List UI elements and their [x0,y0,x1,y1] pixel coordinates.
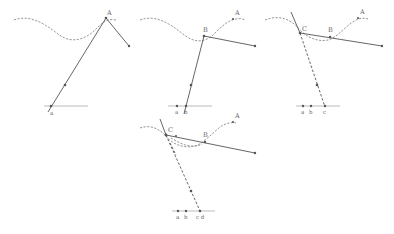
label-base-point: b [184,109,188,115]
curve-point [299,32,302,35]
label-base-left: a [301,109,305,115]
label-curve-top: A [359,8,365,16]
wave-curve [265,18,368,41]
diagram-canvas: A a A B a b A B C a b [0,0,394,234]
panel-4: A B C a b c d [140,112,256,220]
base-mid-point [310,105,312,107]
tangent-line [106,18,129,46]
panel-1: A a [14,9,130,116]
ray-line [48,18,106,112]
ray-dashed-line [300,33,325,107]
end-point [254,152,256,154]
wave-curve [14,18,116,40]
curve-point [203,35,206,38]
label-curve-point: C [168,126,173,134]
label-curve-top: A [234,112,240,120]
label-base-point: a [50,110,54,116]
end-point [128,45,130,47]
mid-point [190,84,193,87]
label-curve-mid: B [328,26,333,34]
curve-mid-point [329,36,331,38]
label-curve-top: A [234,9,240,17]
curve-point [165,134,168,137]
curve-top-point [232,18,234,20]
panel-2: A B a b [140,9,256,115]
base-left-point [176,105,178,107]
curve-point [105,17,108,20]
curve-top-point [357,17,359,19]
label-base-left: a [175,109,179,115]
base-point [199,210,202,213]
base-point [185,105,187,107]
mid-point [316,84,319,87]
tangent-line [300,33,382,46]
mid-point [64,84,67,87]
ray-solid-line [291,12,300,33]
inner-dashed-line [170,143,176,155]
base-point [50,105,53,108]
base-point [324,105,326,107]
curve-mid-point [204,141,206,143]
label-base-left: a [176,214,180,220]
wave-curve [140,123,236,147]
panel-3: A B C a b c [265,8,383,115]
ray-solid-line [160,119,166,135]
curve-top-point [232,121,234,123]
tangent-line [166,135,255,153]
inner-point [175,135,177,137]
diagram-figure: A a A B a b A B C a b [0,0,394,234]
ray-line [184,36,204,114]
tangent-line [204,36,255,46]
base-mid-point [185,210,187,212]
mid-point [190,190,193,193]
label-curve-mid: B [203,131,208,139]
end-point [254,45,256,47]
label-base-mid: b [184,214,188,220]
label-base-point: c d [196,214,205,220]
wave-curve [140,18,245,41]
label-base-point: c [323,109,326,115]
label-curve-point: C [302,25,307,33]
base-left-point [302,105,304,107]
base-left-point [177,210,179,212]
label-base-mid: b [309,109,313,115]
label-curve-point: B [203,26,208,34]
label-curve-point: A [106,9,112,17]
end-point [381,45,383,47]
